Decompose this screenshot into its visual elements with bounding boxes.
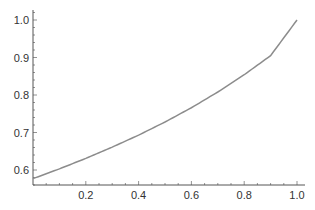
x-tick-label: 0.2 bbox=[78, 189, 93, 201]
y-tick-label: 0.7 bbox=[14, 127, 29, 139]
y-axis-ticks: 0.60.70.80.91.0 bbox=[14, 13, 37, 186]
x-tick-label: 1.0 bbox=[289, 189, 304, 201]
y-tick-label: 1.0 bbox=[14, 14, 29, 26]
y-tick-label: 0.9 bbox=[14, 52, 29, 64]
x-tick-label: 0.6 bbox=[184, 189, 199, 201]
data-line bbox=[33, 20, 297, 179]
x-axis-ticks: 0.20.40.60.81.0 bbox=[46, 181, 304, 201]
x-tick-label: 0.4 bbox=[131, 189, 146, 201]
line-chart: 0.60.70.80.91.0 0.20.40.60.81.0 bbox=[0, 0, 315, 210]
x-tick-label: 0.8 bbox=[237, 189, 252, 201]
y-tick-label: 0.6 bbox=[14, 164, 29, 176]
y-tick-label: 0.8 bbox=[14, 89, 29, 101]
